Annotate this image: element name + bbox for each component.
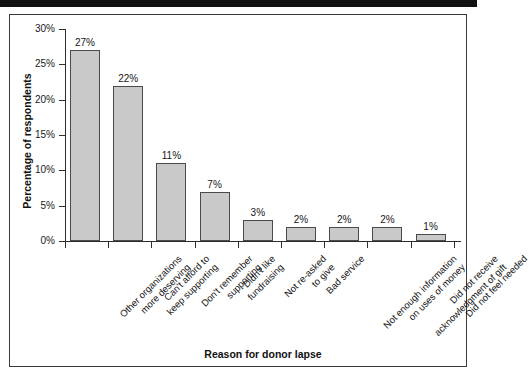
y-tick-label: 20% bbox=[35, 93, 55, 106]
y-tick: 25% bbox=[59, 64, 65, 65]
bar: 22% bbox=[113, 86, 143, 241]
y-tick: 10% bbox=[59, 170, 65, 171]
x-tick-mark bbox=[108, 242, 109, 248]
x-tick-mark bbox=[411, 242, 412, 248]
x-category-label: Not re-askedto give bbox=[282, 253, 337, 308]
y-tick-label: 25% bbox=[35, 57, 55, 70]
bar-value-label: 3% bbox=[251, 207, 265, 218]
y-tick-mark bbox=[59, 64, 65, 65]
y-axis-line bbox=[65, 29, 66, 242]
bar: 7% bbox=[200, 192, 230, 241]
y-tick-label: 0% bbox=[41, 234, 55, 247]
y-tick-mark bbox=[59, 100, 65, 101]
bar: 27% bbox=[70, 50, 100, 241]
bar: 1% bbox=[416, 234, 446, 241]
x-tick-mark bbox=[151, 242, 152, 248]
x-tick-mark bbox=[195, 242, 196, 248]
y-tick-mark bbox=[59, 135, 65, 136]
bar-value-label: 2% bbox=[294, 214, 308, 225]
bar: 11% bbox=[156, 163, 186, 241]
bar-value-label: 2% bbox=[337, 214, 351, 225]
bar-value-label: 1% bbox=[423, 221, 437, 232]
y-tick-label: 15% bbox=[35, 128, 55, 141]
bar-value-label: 22% bbox=[118, 73, 138, 84]
bar: 2% bbox=[372, 227, 402, 241]
y-tick: 15% bbox=[59, 135, 65, 136]
bar: 3% bbox=[243, 220, 273, 241]
y-tick: 20% bbox=[59, 100, 65, 101]
y-tick-label: 10% bbox=[35, 163, 55, 176]
y-tick-label: 5% bbox=[41, 199, 55, 212]
x-tick-mark bbox=[454, 242, 455, 248]
x-tick-mark bbox=[65, 242, 66, 248]
x-tick-mark bbox=[324, 242, 325, 248]
x-tick-mark bbox=[238, 242, 239, 248]
bar-value-label: 7% bbox=[207, 179, 221, 190]
y-tick-mark bbox=[59, 206, 65, 207]
y-tick-mark bbox=[59, 170, 65, 171]
bar-value-label: 11% bbox=[162, 150, 181, 161]
y-tick: 30% bbox=[59, 29, 65, 30]
y-tick: 5% bbox=[59, 206, 65, 207]
x-tick-mark bbox=[367, 242, 368, 248]
y-tick-label: 30% bbox=[35, 22, 55, 35]
bar-value-label: 2% bbox=[380, 214, 394, 225]
x-axis-title: Reason for donor lapse bbox=[65, 348, 461, 360]
x-axis-line bbox=[65, 241, 461, 242]
bar: 2% bbox=[286, 227, 316, 241]
bar: 2% bbox=[329, 227, 359, 241]
y-axis-title: Percentage of respondents bbox=[21, 61, 33, 221]
bar-value-label: 27% bbox=[75, 37, 95, 48]
y-tick-mark bbox=[59, 29, 65, 30]
x-tick-mark bbox=[281, 242, 282, 248]
